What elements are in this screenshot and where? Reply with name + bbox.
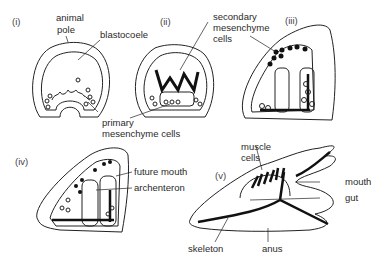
label-animal: animal xyxy=(56,13,84,23)
label-mouth: mouth xyxy=(345,177,371,187)
stage-ii-drawing xyxy=(135,45,213,117)
label-pole: pole xyxy=(57,25,75,35)
stage-v-drawing xyxy=(189,146,335,231)
label-anus: anus xyxy=(262,244,283,254)
embryo-development-diagram: (i) (ii) (iii) (iv) (v) animal pole blas… xyxy=(0,0,389,267)
label-future-mouth: future mouth xyxy=(134,167,187,177)
stage-label-ii: (ii) xyxy=(160,16,171,27)
stage-label-iv: (iv) xyxy=(15,156,28,167)
stage-i-drawing xyxy=(33,42,110,117)
label-mesenchyme-cells: mesenchyme cells xyxy=(102,129,180,139)
label-cells: cells xyxy=(213,34,232,44)
label-blastocoele: blastocoele xyxy=(100,30,148,40)
label-primary: primary xyxy=(102,118,134,128)
stage-label-v: (v) xyxy=(215,170,226,181)
label-mesenchyme: mesenchyme xyxy=(213,23,270,33)
stage-label-i: (i) xyxy=(12,16,20,27)
label-muscle-cells: cells xyxy=(241,153,260,163)
label-gut: gut xyxy=(345,193,358,203)
stage-iii-drawing xyxy=(242,25,335,120)
label-secondary: secondary xyxy=(213,12,257,22)
stage-label-iii: (iii) xyxy=(285,15,298,26)
label-archenteron: archenteron xyxy=(134,183,185,193)
diagram-drawing xyxy=(0,0,389,267)
label-muscle: muscle xyxy=(241,142,271,152)
stage-iv-drawing xyxy=(37,148,129,232)
label-skeleton: skeleton xyxy=(188,244,223,254)
